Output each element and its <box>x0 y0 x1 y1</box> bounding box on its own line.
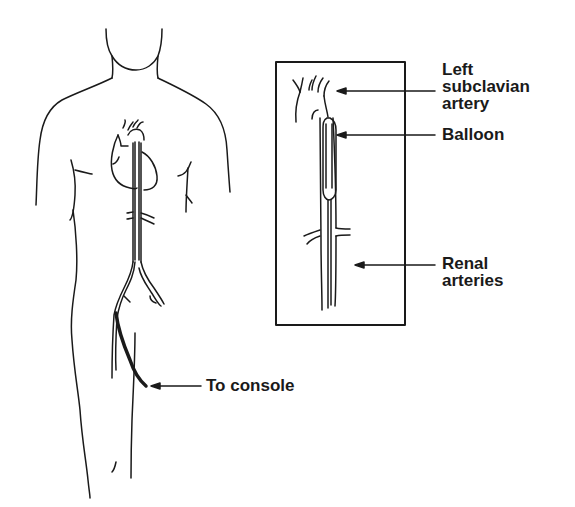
inset-frame <box>276 62 405 325</box>
label-left-subclavian-artery: Left subclavian artery <box>442 61 530 112</box>
heart <box>111 120 157 190</box>
catheter <box>116 313 146 386</box>
label-balloon: Balloon <box>442 126 504 143</box>
aorta <box>112 142 164 378</box>
subclavian-arrow <box>337 88 435 94</box>
inset-aorta <box>293 76 350 310</box>
to-console-arrow <box>151 383 201 389</box>
balloon-arrow <box>337 132 435 138</box>
label-renal-arteries: Renal arteries <box>442 255 503 289</box>
renal-arrow <box>355 262 435 268</box>
label-to-console: To console <box>206 377 294 394</box>
